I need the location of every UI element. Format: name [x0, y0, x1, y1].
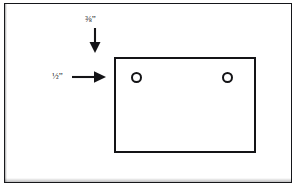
left-dimension-value: ½” — [52, 72, 63, 81]
left-dimension-label: ½” — [52, 71, 63, 81]
hole-right — [222, 72, 233, 83]
diagram-canvas: ⅜” ½” — [0, 0, 298, 188]
top-dimension-label: ⅜” — [85, 14, 96, 24]
top-dimension-value: ⅜” — [85, 15, 96, 24]
hole-left — [131, 72, 142, 83]
